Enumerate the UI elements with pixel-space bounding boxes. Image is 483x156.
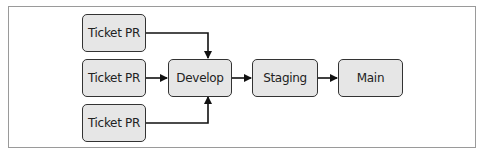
node-ticket-pr-3: Ticket PR (82, 104, 146, 142)
edge-layer (0, 0, 483, 156)
node-main: Main (338, 59, 403, 97)
node-label: Ticket PR (88, 26, 140, 40)
node-label: Main (357, 71, 384, 85)
node-ticket-pr-1: Ticket PR (82, 14, 146, 52)
node-ticket-pr-2: Ticket PR (82, 59, 146, 97)
node-label: Ticket PR (88, 71, 140, 85)
node-label: Ticket PR (88, 116, 140, 130)
edge-ticket3-develop (146, 97, 208, 123)
node-develop: Develop (168, 59, 232, 97)
node-label: Develop (176, 71, 223, 85)
node-label: Staging (263, 71, 307, 85)
node-staging: Staging (252, 59, 318, 97)
edge-ticket1-develop (146, 33, 208, 58)
